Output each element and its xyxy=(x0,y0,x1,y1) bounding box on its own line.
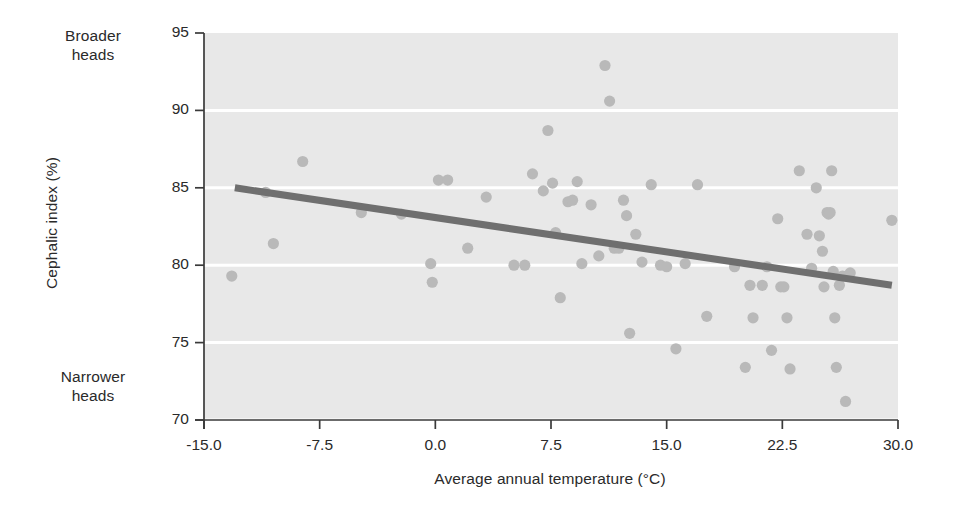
data-point xyxy=(801,229,812,240)
data-point xyxy=(794,165,805,176)
data-point xyxy=(826,165,837,176)
plot-background-group xyxy=(204,33,898,420)
data-point xyxy=(427,277,438,288)
data-point xyxy=(572,176,583,187)
data-point xyxy=(784,363,795,374)
data-point xyxy=(886,215,897,226)
data-point xyxy=(547,178,558,189)
data-point xyxy=(811,182,822,193)
data-point xyxy=(542,125,553,136)
data-point xyxy=(831,362,842,373)
data-point xyxy=(268,238,279,249)
data-point xyxy=(585,199,596,210)
data-point xyxy=(538,185,549,196)
data-point xyxy=(740,362,751,373)
plot-area-background xyxy=(204,33,898,420)
data-point xyxy=(618,195,629,206)
data-point xyxy=(747,312,758,323)
data-point xyxy=(481,191,492,202)
plot-canvas xyxy=(0,0,956,515)
data-point xyxy=(680,258,691,269)
data-point xyxy=(226,270,237,281)
data-point xyxy=(519,260,530,271)
data-point xyxy=(814,230,825,241)
data-point xyxy=(624,328,635,339)
scatter-plot-figure: Broader heads Narrower heads Cephalic in… xyxy=(0,0,956,515)
data-point xyxy=(297,156,308,167)
data-point xyxy=(621,210,632,221)
data-point xyxy=(599,60,610,71)
data-point xyxy=(630,229,641,240)
data-point xyxy=(817,246,828,257)
data-point xyxy=(555,292,566,303)
data-point xyxy=(462,243,473,254)
data-point xyxy=(661,261,672,272)
data-point xyxy=(825,207,836,218)
data-point xyxy=(772,213,783,224)
data-point xyxy=(701,311,712,322)
data-point xyxy=(527,168,538,179)
data-point xyxy=(757,280,768,291)
data-point xyxy=(692,179,703,190)
data-point xyxy=(442,174,453,185)
data-point xyxy=(840,396,851,407)
data-point xyxy=(567,195,578,206)
data-point xyxy=(604,96,615,107)
data-point xyxy=(778,281,789,292)
data-point xyxy=(781,312,792,323)
data-point xyxy=(829,312,840,323)
data-point xyxy=(646,179,657,190)
data-point xyxy=(425,258,436,269)
data-point xyxy=(593,250,604,261)
data-point xyxy=(508,260,519,271)
data-point xyxy=(576,258,587,269)
data-point xyxy=(744,280,755,291)
data-point xyxy=(636,257,647,268)
data-point xyxy=(766,345,777,356)
data-point xyxy=(670,343,681,354)
data-point xyxy=(818,281,829,292)
